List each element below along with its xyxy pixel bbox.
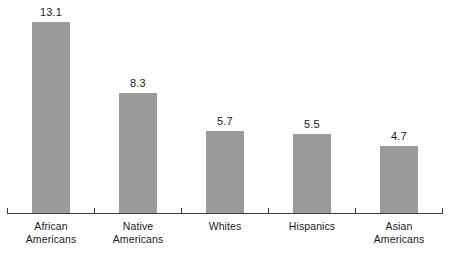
category-label-line: Americans: [355, 233, 443, 246]
bar-group: 5.5: [293, 0, 331, 214]
bar-value-label: 5.7: [206, 115, 244, 128]
bar: [32, 22, 70, 214]
bar: [380, 146, 418, 214]
bar-group: 5.7: [206, 0, 244, 214]
axis-tick: [7, 208, 8, 214]
category-label-line: Americans: [7, 233, 95, 246]
axis-tick: [442, 208, 443, 214]
category-label-line: Hispanics: [268, 220, 356, 233]
bar-chart: 13.1 8.3 5.7 5.5 4.7: [0, 0, 450, 260]
bar-group: 13.1: [32, 0, 70, 214]
bar-value-label: 8.3: [119, 77, 157, 90]
category-label-hispanics: Hispanics: [268, 220, 356, 233]
category-label-line: Americans: [94, 233, 182, 246]
bar: [119, 93, 157, 214]
category-label-line: Asian: [355, 220, 443, 233]
bar-group: 8.3: [119, 0, 157, 214]
category-label-african-americans: African Americans: [7, 220, 95, 246]
bar: [206, 131, 244, 214]
axis-tick: [268, 208, 269, 214]
category-label-native-americans: Native Americans: [94, 220, 182, 246]
axis-tick: [181, 208, 182, 214]
axis-tick: [94, 208, 95, 214]
bar: [293, 134, 331, 214]
category-label-line: African: [7, 220, 95, 233]
bar-value-label: 5.5: [293, 118, 331, 131]
bar-value-label: 13.1: [32, 6, 70, 19]
axis-tick: [355, 208, 356, 214]
category-labels: African Americans Native Americans White…: [0, 220, 450, 260]
x-axis-line: [7, 213, 443, 214]
plot-area: 13.1 8.3 5.7 5.5 4.7: [0, 0, 450, 214]
category-label-line: Native: [94, 220, 182, 233]
bar-value-label: 4.7: [380, 130, 418, 143]
bars-layer: 13.1 8.3 5.7 5.5 4.7: [0, 0, 450, 214]
bar-group: 4.7: [380, 0, 418, 214]
category-label-line: Whites: [181, 220, 269, 233]
category-label-whites: Whites: [181, 220, 269, 233]
category-label-asian-americans: Asian Americans: [355, 220, 443, 246]
